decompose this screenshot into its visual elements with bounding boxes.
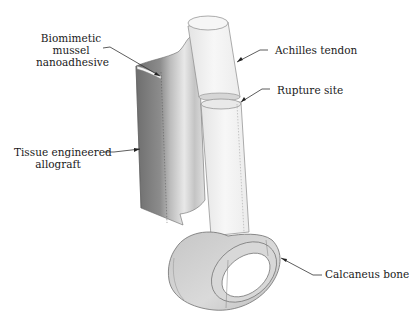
label-achilles-tendon: Achilles tendon bbox=[275, 44, 357, 56]
label-rupture-site: Rupture site bbox=[277, 84, 343, 96]
label-nanoadhesive-line1: Biomimetic bbox=[36, 32, 106, 44]
label-calcaneus-bone: Calcaneus bone bbox=[325, 268, 409, 280]
label-nanoadhesive-line2: mussel bbox=[36, 44, 106, 56]
arrow-calcaneus-icon bbox=[281, 258, 287, 262]
arrow-achilles-icon bbox=[237, 57, 243, 62]
label-allograft: Tissue engineered allograft bbox=[14, 146, 102, 170]
calcaneus-bone bbox=[168, 229, 288, 314]
label-nanoadhesive: Biomimetic mussel nanoadhesive bbox=[36, 32, 106, 68]
label-allograft-line1: Tissue engineered bbox=[14, 146, 102, 158]
achilles-tendon-lower bbox=[201, 99, 249, 236]
arrow-rupture-icon bbox=[241, 97, 246, 102]
label-nanoadhesive-line3: nanoadhesive bbox=[36, 56, 106, 68]
leader-calcaneus bbox=[281, 258, 322, 275]
label-allograft-line2: allograft bbox=[14, 158, 102, 170]
